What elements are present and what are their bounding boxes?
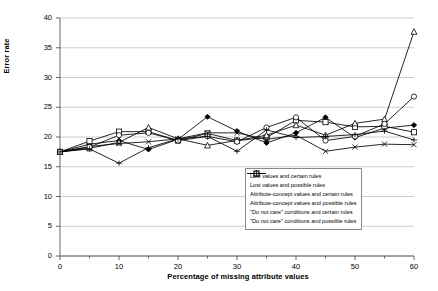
y-tick-label: 20 — [28, 132, 52, 141]
data-point-marker — [293, 115, 298, 120]
data-point-marker — [87, 139, 92, 144]
data-point-marker — [116, 133, 121, 138]
data-point-marker — [411, 123, 416, 128]
y-tick-label: 40 — [28, 13, 52, 22]
x-tick-label: 10 — [104, 262, 134, 271]
x-tick-label: 50 — [340, 262, 370, 271]
y-tick-label: 15 — [28, 162, 52, 171]
data-point-marker — [323, 120, 328, 125]
y-tick-label: 25 — [28, 102, 52, 111]
data-point-marker — [411, 94, 416, 99]
data-point-marker — [411, 137, 417, 142]
x-tick-label: 30 — [222, 262, 252, 271]
y-tick-label: 0 — [28, 251, 52, 260]
y-tick-label: 35 — [28, 43, 52, 52]
x-tick-label: 60 — [399, 262, 429, 271]
chart-figure: Error rate Percentage of missing attribu… — [0, 0, 438, 291]
series-5 — [57, 94, 416, 155]
x-tick-label: 0 — [45, 262, 75, 271]
legend-item: "Do not care" conditions and possible ru… — [249, 217, 357, 226]
data-point-marker — [253, 171, 259, 176]
y-tick-label: 5 — [28, 221, 52, 230]
data-point-marker — [411, 29, 417, 35]
data-point-marker — [382, 116, 388, 122]
y-tick-label: 30 — [28, 73, 52, 82]
data-point-marker — [146, 130, 151, 135]
data-point-marker — [234, 139, 239, 144]
data-point-marker — [382, 121, 387, 126]
data-point-marker — [411, 130, 416, 135]
y-tick-label: 10 — [28, 192, 52, 201]
legend-marker-plus — [246, 169, 267, 178]
chart-legend: Lost values and certain rulesLost values… — [245, 168, 362, 230]
data-point-marker — [146, 124, 152, 130]
plot-area — [0, 0, 438, 291]
x-tick-label: 40 — [281, 262, 311, 271]
data-point-marker — [116, 161, 122, 166]
legend-label: "Do not care" conditions and possible ru… — [249, 216, 356, 226]
x-tick-label: 20 — [163, 262, 193, 271]
